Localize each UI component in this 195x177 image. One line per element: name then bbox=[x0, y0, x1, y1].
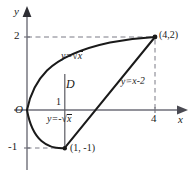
radical-overbar-lower bbox=[67, 114, 72, 115]
region-label-d: D bbox=[66, 78, 75, 90]
x-tick-label-1: 1 bbox=[56, 97, 61, 107]
y-axis-label: y bbox=[14, 6, 19, 17]
math-figure: y x O 2 1 -1 4 D (4,2) (1, -1) y=√x y=-√… bbox=[0, 0, 195, 177]
point-label-4-2: (4,2) bbox=[159, 30, 178, 40]
figure-canvas bbox=[0, 0, 195, 177]
curve-upper-sqrt bbox=[27, 37, 155, 110]
x-axis-label: x bbox=[178, 114, 183, 125]
radicand-lower: x bbox=[67, 114, 71, 124]
origin-label: O bbox=[15, 104, 23, 115]
equation-prefix-upper: y= bbox=[61, 50, 72, 61]
radical-overbar-upper bbox=[78, 51, 83, 52]
x-tick-label-4: 4 bbox=[151, 113, 157, 124]
radicand-upper: x bbox=[78, 51, 82, 61]
point-dot-1-neg1 bbox=[63, 146, 67, 150]
equation-label-lower-sqrt: y=-√x bbox=[47, 114, 71, 124]
equation-prefix-lower: y= bbox=[47, 113, 58, 124]
point-dot-4-2 bbox=[153, 35, 158, 40]
y-tick-label-2: 2 bbox=[14, 30, 20, 41]
equation-label-line: y=x-2 bbox=[121, 76, 145, 87]
point-label-1-minus-1: (1, -1) bbox=[70, 143, 95, 153]
y-axis-arrowhead bbox=[23, 6, 32, 17]
equation-label-upper-sqrt: y=√x bbox=[61, 51, 82, 61]
y-tick-label-minus-1: -1 bbox=[8, 141, 17, 152]
